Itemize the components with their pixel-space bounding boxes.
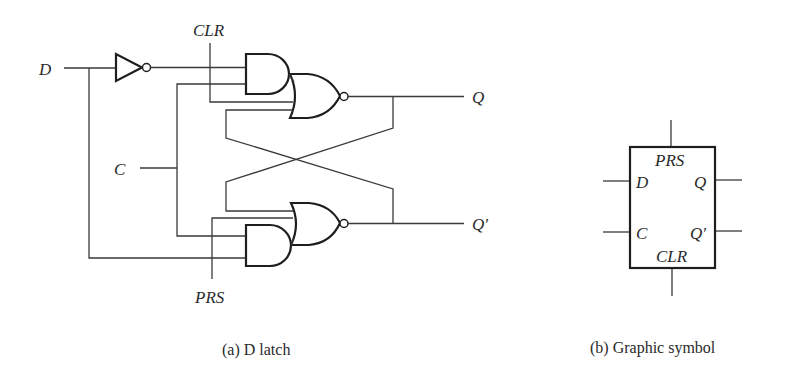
symbol-q-prime-label: Q′	[690, 224, 706, 243]
d-latch-circuit: D C CLR PRS Q Q′ (a) D latch	[38, 21, 488, 359]
symbol-d-label: D	[635, 173, 649, 192]
d-branch-wire	[89, 68, 246, 258]
and-gate-top	[246, 54, 289, 94]
c-bus-wire	[177, 84, 246, 236]
d-label: D	[38, 60, 52, 79]
q-prime-label: Q′	[472, 215, 488, 234]
prs-label: PRS	[194, 288, 225, 307]
d-latch-diagram: D C CLR PRS Q Q′ (a) D latch PRS D Q C Q…	[0, 0, 786, 375]
graphic-symbol: PRS D Q C Q′ CLR (b) Graphic symbol	[590, 120, 742, 357]
c-label: C	[114, 160, 126, 179]
symbol-clr-label: CLR	[656, 247, 688, 266]
clr-label: CLR	[193, 21, 225, 40]
caption-a: (a) D latch	[222, 341, 290, 359]
nor-bottom-bubble	[340, 220, 348, 228]
symbol-prs-label: PRS	[654, 151, 685, 170]
nor-top-bubble	[340, 93, 348, 101]
nor-gate-bottom	[291, 203, 340, 245]
q-label: Q	[472, 88, 484, 107]
caption-b: (b) Graphic symbol	[590, 339, 716, 357]
symbol-q-label: Q	[694, 173, 706, 192]
and-gate-bottom	[246, 225, 291, 266]
inverter-bubble	[143, 64, 151, 72]
nor-gate-top	[290, 74, 340, 118]
symbol-c-label: C	[636, 224, 648, 243]
inverter-gate	[116, 54, 142, 81]
